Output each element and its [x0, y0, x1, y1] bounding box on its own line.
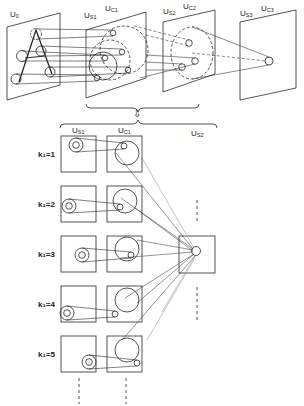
label-us1: US1	[84, 12, 97, 21]
row-label-k1: k₁=1	[38, 150, 55, 159]
label-u0: U0	[10, 11, 19, 20]
expand-arrow-icon: ⇩	[133, 109, 141, 119]
row-label-k4: k₁=4	[38, 300, 55, 309]
us1-box-k1	[61, 136, 96, 172]
label-uc2: UC2	[183, 3, 196, 12]
row-label-k5: k₁=5	[38, 350, 55, 359]
plane-u0	[7, 13, 60, 100]
row-label-k2: k₁=2	[38, 200, 55, 209]
label-us3: US3	[240, 10, 253, 19]
label-us2: US2	[163, 8, 176, 17]
label-detail-us2: US2	[191, 130, 204, 139]
plane-us3-uc3	[240, 10, 296, 100]
label-uc3: UC3	[261, 5, 274, 14]
row-label-k3: k₁=3	[38, 250, 55, 259]
uc1-box-k4	[107, 286, 142, 322]
us2-box	[179, 236, 215, 273]
brace-top	[86, 104, 199, 112]
label-detail-uc1: UC1	[118, 127, 131, 136]
us1-box-k5	[61, 336, 96, 372]
label-detail-us1: US1	[72, 127, 85, 136]
label-uc1: UC1	[105, 5, 118, 14]
